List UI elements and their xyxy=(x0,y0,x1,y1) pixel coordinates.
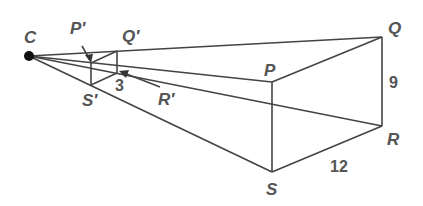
edge-RpSp xyxy=(91,73,117,85)
measure-SR: 12 xyxy=(330,158,348,175)
perspective-diagram: C P′ Q′ S′ R′ 3 P Q R S 9 12 xyxy=(0,0,423,206)
label-C: C xyxy=(24,28,37,47)
label-P-prime: P′ xyxy=(70,19,86,38)
measure-small-side: 3 xyxy=(115,77,124,94)
label-P: P xyxy=(264,61,276,80)
ray-C-S xyxy=(29,56,272,172)
ray-C-P xyxy=(29,56,272,82)
label-Q-prime: Q′ xyxy=(122,27,140,46)
measure-QR: 9 xyxy=(389,74,398,91)
label-R-prime: R′ xyxy=(158,90,175,109)
label-S-prime: S′ xyxy=(82,91,98,110)
arrow-R-prime xyxy=(124,73,160,87)
edge-RS xyxy=(272,126,382,172)
center-point-C xyxy=(24,51,34,61)
label-R: R xyxy=(387,130,400,149)
edge-PQ xyxy=(272,37,382,82)
label-S: S xyxy=(266,180,278,199)
label-Q: Q xyxy=(388,19,401,38)
